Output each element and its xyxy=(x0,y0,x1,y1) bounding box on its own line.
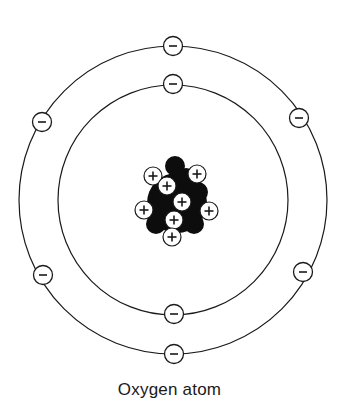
proton xyxy=(135,201,153,219)
electron-outer xyxy=(164,37,183,56)
electron-inner xyxy=(165,305,184,324)
diagram-caption: Oxygen atom xyxy=(0,380,339,400)
electron-inner xyxy=(164,75,183,94)
electron-outer xyxy=(165,345,184,364)
electron-outer xyxy=(294,263,313,282)
electron-outer xyxy=(290,109,309,128)
proton xyxy=(173,193,191,211)
proton xyxy=(163,228,181,246)
electron-outer xyxy=(34,266,53,285)
proton xyxy=(188,165,206,183)
nucleus xyxy=(135,156,218,246)
oxygen-atom-diagram xyxy=(0,0,339,418)
proton xyxy=(158,177,176,195)
electron-outer xyxy=(33,113,52,132)
proton xyxy=(200,202,218,220)
proton xyxy=(165,211,183,229)
